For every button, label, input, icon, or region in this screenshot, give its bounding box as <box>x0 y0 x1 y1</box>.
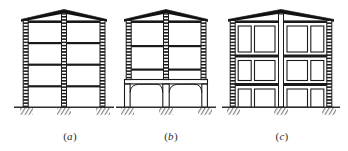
structural-frames-figure: (a) (b) (c) <box>0 0 348 151</box>
frame-panel-c <box>222 10 340 115</box>
frame-panel-b <box>116 10 216 115</box>
columns-a <box>23 14 105 107</box>
caption-b-close-paren: ) <box>174 130 178 142</box>
ground-b <box>116 107 216 115</box>
caption-panel-b: (b) <box>141 128 201 144</box>
ground-columns-b <box>125 84 208 107</box>
support-hatch-a <box>20 108 110 115</box>
caption-panel-a: (a) <box>40 128 100 144</box>
support-hatch-c <box>227 108 336 115</box>
haunches-b <box>130 84 202 92</box>
caption-c-close-paren: ) <box>285 130 289 142</box>
frame-panel-a <box>14 10 114 115</box>
center-column-c <box>279 14 284 107</box>
support-hatch-b <box>121 108 212 115</box>
caption-panel-c: (c) <box>252 128 312 144</box>
caption-a-close-paren: ) <box>73 130 77 142</box>
ground-a <box>14 107 114 115</box>
ground-c <box>222 107 340 115</box>
caption-row: (a) (b) (c) <box>0 128 348 151</box>
transfer-beam-b <box>125 80 208 84</box>
